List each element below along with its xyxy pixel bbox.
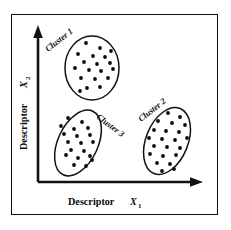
- y-axis-label-variable: X: [18, 81, 29, 89]
- arrow-up-icon: [33, 25, 43, 38]
- cluster-1-outline: [65, 36, 119, 100]
- y-axis-label-subscript: 2: [24, 76, 32, 80]
- y-axis-label-word: Descriptor: [18, 103, 29, 150]
- cluster-3-group: Cluster 3: [45, 103, 127, 183]
- x-axis-label-word: Descriptor: [68, 196, 115, 207]
- x-axis: [38, 177, 203, 187]
- x-axis-label: Descriptor X 1: [68, 196, 142, 210]
- y-axis-label: Descriptor X 2: [18, 76, 32, 150]
- x-axis-label-subscript: 1: [138, 202, 142, 210]
- scatter-plot-svg: Cluster 1: [0, 0, 231, 230]
- x-axis-label-variable: X: [129, 196, 137, 207]
- arrow-right-icon: [190, 177, 203, 187]
- y-axis: [33, 25, 43, 182]
- figure-container: Cluster 1: [0, 0, 231, 230]
- cluster-2-group: Cluster 2: [134, 95, 199, 181]
- cluster-1-group: Cluster 1: [43, 26, 119, 100]
